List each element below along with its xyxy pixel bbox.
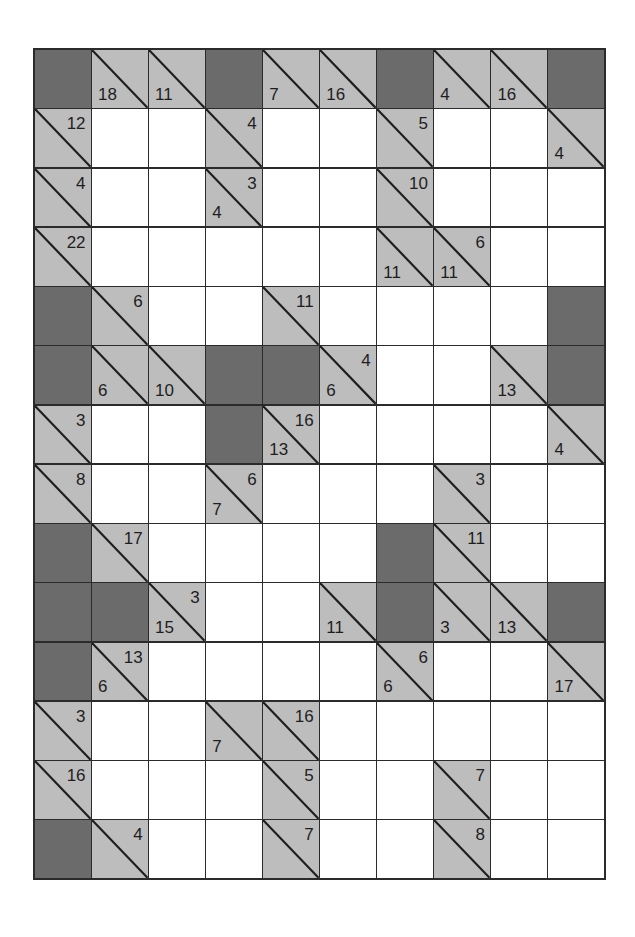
entry-cell[interactable] [92, 169, 148, 227]
down-clue: 4 [212, 204, 221, 221]
entry-cell[interactable] [206, 524, 262, 582]
entry-cell[interactable] [149, 643, 205, 701]
entry-cell[interactable] [320, 287, 376, 345]
entry-cell[interactable] [206, 287, 262, 345]
entry-cell[interactable] [149, 406, 205, 464]
down-clue: 13 [497, 382, 516, 399]
entry-cell[interactable] [548, 465, 604, 523]
entry-cell[interactable] [377, 346, 433, 404]
entry-cell[interactable] [548, 524, 604, 582]
entry-cell[interactable] [491, 702, 547, 760]
entry-cell[interactable] [548, 702, 604, 760]
entry-cell[interactable] [263, 524, 319, 582]
clue-cell: 3 [35, 702, 91, 760]
entry-cell[interactable] [434, 109, 490, 167]
entry-cell[interactable] [320, 702, 376, 760]
clue-cell: 4 [92, 820, 148, 878]
entry-cell[interactable] [491, 820, 547, 878]
entry-cell[interactable] [92, 761, 148, 819]
entry-cell[interactable] [491, 228, 547, 286]
entry-cell[interactable] [491, 406, 547, 464]
across-clue: 6 [418, 649, 427, 666]
entry-cell[interactable] [149, 465, 205, 523]
clue-cell: 17 [548, 643, 604, 701]
entry-cell[interactable] [434, 287, 490, 345]
clue-cell: 1613 [263, 406, 319, 464]
entry-cell[interactable] [206, 583, 262, 641]
entry-cell[interactable] [263, 643, 319, 701]
entry-cell[interactable] [320, 820, 376, 878]
entry-cell[interactable] [206, 761, 262, 819]
entry-cell[interactable] [320, 406, 376, 464]
entry-cell[interactable] [92, 465, 148, 523]
entry-cell[interactable] [263, 109, 319, 167]
entry-cell[interactable] [206, 820, 262, 878]
entry-cell[interactable] [320, 524, 376, 582]
clue-cell: 67 [206, 465, 262, 523]
entry-cell[interactable] [434, 346, 490, 404]
entry-cell[interactable] [320, 228, 376, 286]
entry-cell[interactable] [206, 643, 262, 701]
clue-cell: 3 [434, 583, 490, 641]
entry-cell[interactable] [491, 465, 547, 523]
entry-cell[interactable] [548, 228, 604, 286]
entry-cell[interactable] [92, 702, 148, 760]
down-clue: 6 [98, 382, 107, 399]
entry-cell[interactable] [491, 169, 547, 227]
entry-cell[interactable] [320, 643, 376, 701]
down-clue: 4 [554, 145, 563, 162]
down-clue: 11 [326, 619, 344, 636]
clue-cell: 3 [434, 465, 490, 523]
entry-cell[interactable] [491, 287, 547, 345]
entry-cell[interactable] [149, 169, 205, 227]
entry-cell[interactable] [263, 583, 319, 641]
entry-cell[interactable] [263, 169, 319, 227]
entry-cell[interactable] [548, 761, 604, 819]
entry-cell[interactable] [434, 169, 490, 227]
entry-cell[interactable] [92, 109, 148, 167]
entry-cell[interactable] [377, 702, 433, 760]
entry-cell[interactable] [206, 228, 262, 286]
entry-cell[interactable] [149, 820, 205, 878]
entry-cell[interactable] [92, 228, 148, 286]
entry-cell[interactable] [92, 406, 148, 464]
down-clue: 7 [212, 501, 221, 518]
entry-cell[interactable] [491, 761, 547, 819]
entry-cell[interactable] [548, 169, 604, 227]
down-clue: 15 [155, 619, 174, 636]
entry-cell[interactable] [149, 287, 205, 345]
entry-cell[interactable] [320, 465, 376, 523]
entry-cell[interactable] [377, 820, 433, 878]
entry-cell[interactable] [434, 702, 490, 760]
down-clue: 6 [326, 382, 335, 399]
entry-cell[interactable] [320, 169, 376, 227]
clue-cell: 611 [434, 228, 490, 286]
block-cell [206, 346, 262, 404]
across-clue: 13 [124, 649, 143, 666]
block-cell [377, 524, 433, 582]
entry-cell[interactable] [377, 287, 433, 345]
entry-cell[interactable] [263, 465, 319, 523]
entry-cell[interactable] [149, 524, 205, 582]
clue-cell: 4 [434, 50, 490, 108]
entry-cell[interactable] [263, 228, 319, 286]
block-cell [35, 346, 91, 404]
entry-cell[interactable] [320, 761, 376, 819]
entry-cell[interactable] [434, 406, 490, 464]
entry-cell[interactable] [491, 643, 547, 701]
entry-cell[interactable] [377, 406, 433, 464]
clue-cell: 16 [491, 50, 547, 108]
entry-cell[interactable] [491, 524, 547, 582]
entry-cell[interactable] [149, 702, 205, 760]
entry-cell[interactable] [149, 228, 205, 286]
across-clue: 3 [76, 412, 85, 429]
entry-cell[interactable] [491, 109, 547, 167]
entry-cell[interactable] [548, 820, 604, 878]
entry-cell[interactable] [434, 643, 490, 701]
entry-cell[interactable] [149, 109, 205, 167]
entry-cell[interactable] [149, 761, 205, 819]
entry-cell[interactable] [377, 761, 433, 819]
entry-cell[interactable] [377, 465, 433, 523]
entry-cell[interactable] [320, 109, 376, 167]
down-clue: 4 [440, 86, 449, 103]
